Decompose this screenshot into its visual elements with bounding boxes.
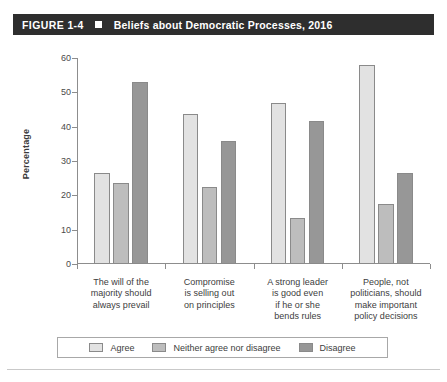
bar (183, 114, 199, 264)
y-axis-label: Percentage (21, 109, 31, 199)
x-tick-mark (430, 264, 431, 269)
category-label-line: is selling out (165, 288, 253, 299)
category-label: People, notpoliticians, shouldmake impor… (342, 277, 430, 323)
x-tick-mark (77, 264, 78, 269)
figure-container: FIGURE 1-4 Beliefs about Democratic Proc… (0, 0, 447, 382)
bar (359, 65, 375, 264)
bar (290, 218, 306, 264)
y-tick-label: 20 (40, 190, 71, 200)
y-tick-label: 0 (40, 259, 71, 269)
x-tick-mark (342, 264, 343, 269)
category-label-line: on principles (165, 300, 253, 311)
bar (94, 173, 110, 264)
bar (132, 82, 148, 264)
category-label-line: A strong leader (254, 277, 342, 288)
y-tick-label: 40 (40, 122, 71, 132)
y-tick-label: 60 (40, 53, 71, 63)
bar (221, 141, 237, 264)
category-label-line: People, not (342, 277, 430, 288)
y-tick-label: 50 (40, 87, 71, 97)
y-tick-label: 10 (40, 225, 71, 235)
chart-legend: AgreeNeither agree nor disagreeDisagree (57, 337, 388, 358)
y-tick-label: 30 (40, 156, 71, 166)
x-tick-mark (165, 264, 166, 269)
category-label-line: The will of the (77, 277, 165, 288)
category-label-line: bends rules (254, 311, 342, 322)
source-divider (7, 369, 440, 370)
category-label-line: if he or she (254, 300, 342, 311)
bars-layer (77, 58, 430, 264)
bar (309, 121, 325, 265)
figure-title: Beliefs about Democratic Processes, 2016 (114, 19, 333, 31)
bar (202, 187, 218, 264)
legend-swatch (152, 343, 166, 352)
figure-number: FIGURE 1-4 (22, 19, 84, 31)
category-label: The will of themajority shouldalways pre… (77, 277, 165, 311)
category-label-line: is good even (254, 288, 342, 299)
square-bullet-icon (95, 21, 102, 28)
legend-swatch (89, 343, 103, 352)
figure-header-bar: FIGURE 1-4 Beliefs about Democratic Proc… (13, 14, 434, 35)
category-label: Compromiseis selling outon principles (165, 277, 253, 311)
legend-label: Disagree (320, 343, 356, 353)
legend-label: Neither agree nor disagree (173, 343, 280, 353)
legend-item[interactable]: Agree (89, 343, 134, 353)
category-label-line: always prevail (77, 300, 165, 311)
category-label-line: make important (342, 300, 430, 311)
category-label-line: majority should (77, 288, 165, 299)
bar (271, 103, 287, 264)
x-tick-mark (254, 264, 255, 269)
category-label-line: politicians, should (342, 288, 430, 299)
category-label: A strong leaderis good evenif he or sheb… (254, 277, 342, 323)
category-label-line: policy decisions (342, 311, 430, 322)
category-label-line: Compromise (165, 277, 253, 288)
legend-item[interactable]: Neither agree nor disagree (152, 343, 280, 353)
legend-label: Agree (110, 343, 134, 353)
plot-area: Percentage 0102030405060 (0, 45, 447, 275)
legend-item[interactable]: Disagree (299, 343, 356, 353)
legend-swatch (299, 343, 313, 352)
x-axis-category-labels: The will of themajority shouldalways pre… (77, 277, 430, 335)
bar (113, 183, 129, 264)
bar (397, 173, 413, 264)
bar (378, 204, 394, 264)
